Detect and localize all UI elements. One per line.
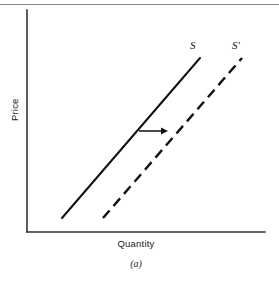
curve-label-s-prime: S'	[232, 40, 240, 51]
supply-curve-s-prime	[103, 58, 242, 218]
supply-shift-figure: Price Quantity S S' (a)	[0, 0, 279, 282]
x-axis-label: Quantity	[88, 239, 184, 249]
figure-caption: (a)	[106, 259, 166, 269]
supply-curve-s	[62, 58, 200, 218]
y-axis-label: Price	[10, 82, 20, 138]
curve-label-s: S	[190, 40, 196, 51]
rightward-shift-arrow	[139, 128, 168, 135]
